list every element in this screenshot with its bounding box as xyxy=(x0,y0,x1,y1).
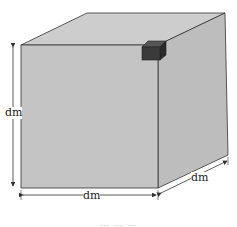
height-label: dm xyxy=(5,107,22,119)
cube-diagram xyxy=(0,0,237,227)
caption: … … … xyxy=(100,218,138,227)
cube-front-face xyxy=(21,45,158,188)
depth-label: dm xyxy=(191,172,208,184)
width-label: dm xyxy=(83,190,100,202)
unit-cube xyxy=(142,41,166,60)
